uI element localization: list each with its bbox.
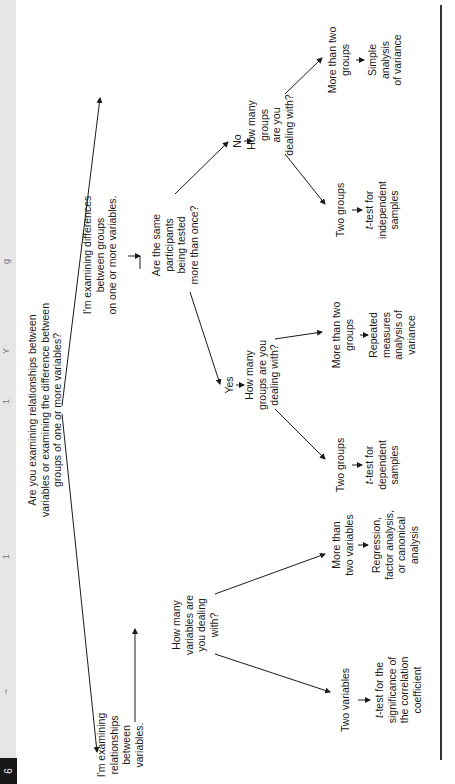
root-question-line: Are you examining relationships between <box>26 303 39 517</box>
node-line: analysis <box>379 34 392 85</box>
node-line: More than <box>330 514 343 575</box>
node-line: of variance <box>391 34 404 85</box>
root-question-line: groups of one or more variables? <box>51 303 64 517</box>
two-groups-independent-node: Two groups <box>334 183 347 237</box>
node-line: t-test for <box>363 440 376 490</box>
node-line: with? <box>208 595 221 655</box>
node-line: participants <box>163 206 176 285</box>
node-line: the correlation <box>398 657 411 724</box>
rotated-page: 6 ~ 1 1 Y g <box>0 0 455 784</box>
root-question-line: variables or examining the difference be… <box>39 303 52 517</box>
node-line: t-test for <box>363 181 376 239</box>
node-line: independent <box>376 181 389 239</box>
node-line: analysis <box>408 510 421 580</box>
bottom-rule <box>440 5 442 760</box>
node-line: analysis of <box>392 310 405 360</box>
node-line: variance <box>405 310 418 360</box>
two-groups-dependent-node: Two groups <box>334 438 347 492</box>
node-line: variables are <box>183 595 196 655</box>
node-line: I'm examining <box>95 713 108 777</box>
root-question: Are you examining relationships between … <box>26 303 64 517</box>
node-line: factor analysis, <box>383 510 396 580</box>
node-line: t-test for the <box>373 657 386 724</box>
node-line: relationships <box>108 713 121 777</box>
repeated-measures-node: Repeated measures analysis of variance <box>367 310 417 360</box>
simple-anova-node: Simple analysis of variance <box>366 34 404 85</box>
yes-label: Yes <box>223 376 236 393</box>
node-line: dealing with? <box>268 340 281 410</box>
node-line: groups <box>342 302 355 369</box>
node-line: significance of <box>386 657 399 724</box>
node-line: measures <box>380 310 393 360</box>
correlation-ttest-node: t-test for the significance of the corre… <box>373 657 423 724</box>
node-line: between groups <box>94 195 107 314</box>
node-line: are you <box>270 94 283 155</box>
node-line: Regression, <box>370 510 383 580</box>
node-line: more than once? <box>188 206 201 285</box>
node-line: being tested <box>175 206 188 285</box>
node-line: you dealing <box>195 595 208 655</box>
node-line: More than two <box>330 302 343 369</box>
node-line: variables. <box>133 713 146 777</box>
how-many-groups-no-node: How many groups are you dealing with? <box>245 94 295 155</box>
same-participants-node: Are the same participants being tested m… <box>150 206 200 285</box>
node-line: on one or more variables. <box>106 195 119 314</box>
node-line: Repeated <box>367 310 380 360</box>
node-line: dependent <box>376 440 389 490</box>
node-line: two variables <box>342 514 355 575</box>
more-than-two-groups-repeated-node: More than two groups <box>330 302 355 369</box>
how-many-groups-yes-node: How many groups are you dealing with? <box>243 340 281 410</box>
node-line: groups <box>258 94 271 155</box>
relationships-node: I'm examining relationships between vari… <box>95 713 145 777</box>
two-variables-node: Two variables <box>339 668 352 732</box>
node-line: samples <box>388 181 401 239</box>
node-line: groups are you <box>256 340 269 410</box>
node-line: I'm examining differences <box>81 195 94 314</box>
how-many-variables-node: How many variables are you dealing with? <box>170 595 220 655</box>
node-line: Simple <box>366 34 379 85</box>
more-than-two-variables-node: More than two variables <box>330 514 355 575</box>
node-line: or canonical <box>395 510 408 580</box>
no-label: No <box>231 134 244 147</box>
differences-node: I'm examining differences between groups… <box>81 195 119 314</box>
node-line: Are the same <box>150 206 163 285</box>
node-line: How many <box>243 340 256 410</box>
regression-node: Regression, factor analysis, or canonica… <box>370 510 420 580</box>
node-line: between <box>120 713 133 777</box>
independent-ttest-node: t-test for independent samples <box>363 181 401 239</box>
more-than-two-groups-simple-node: More than two groups <box>326 27 351 94</box>
node-line: dealing with? <box>283 94 296 155</box>
node-line: How many <box>170 595 183 655</box>
dependent-ttest-node: t-test for dependent samples <box>363 440 401 490</box>
node-line: More than two <box>326 27 339 94</box>
node-line: How many <box>245 94 258 155</box>
node-line: coefficient <box>411 657 424 724</box>
node-line: samples <box>388 440 401 490</box>
node-line: groups <box>338 27 351 94</box>
